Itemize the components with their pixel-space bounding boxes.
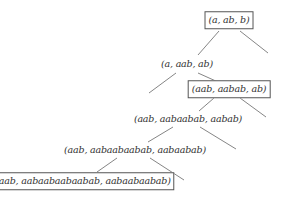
tree-edge — [198, 31, 219, 55]
tree-node: (aab, aabaabaabab, aabaabab) — [64, 145, 206, 155]
tree-edge — [240, 31, 268, 53]
tree-edge — [199, 98, 214, 111]
tree-node-boxed-leaf: (aab, aabaabaabaabab, aabaabaabab) — [0, 172, 175, 190]
tree-edge — [240, 98, 266, 117]
tree-node-boxed: (aab, aabab, ab) — [188, 80, 271, 98]
tree-node: (a, aab, ab) — [161, 59, 213, 69]
tree-edge — [149, 73, 176, 93]
tree-edge — [148, 127, 173, 142]
tree-node: (aab, aabaabab, aabab) — [134, 114, 242, 124]
tree-edges — [0, 0, 282, 200]
tree-node-root: (a, ab, b) — [205, 11, 254, 29]
tree-edge — [97, 158, 117, 172]
